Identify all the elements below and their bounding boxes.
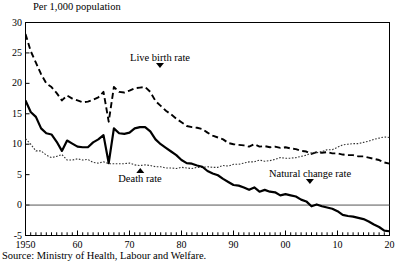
y-axis-tick-label: 5 bbox=[17, 170, 22, 180]
y-axis-tick-label: 30 bbox=[12, 18, 22, 28]
annotation-label: Live birth rate bbox=[130, 52, 190, 63]
x-axis-tick-label: 80 bbox=[177, 239, 187, 250]
y-axis-tick-label: 20 bbox=[12, 78, 22, 88]
down-triangle-icon bbox=[156, 63, 164, 68]
data-series-group bbox=[26, 34, 390, 231]
x-axis-tick-label: 10 bbox=[333, 239, 343, 250]
x-axis-tick-label: 90 bbox=[229, 239, 239, 250]
x-axis-tick-label: 1950 bbox=[16, 239, 36, 250]
annotation-label: Natural change rate bbox=[269, 168, 351, 179]
annotation-label: Death rate bbox=[118, 173, 161, 184]
annotation-natural-change-rate: Natural change rate bbox=[269, 168, 351, 184]
series-natural-change-rate bbox=[26, 100, 390, 231]
x-axis-tick-label: 20 bbox=[385, 239, 395, 250]
y-axis-tick-label: 10 bbox=[12, 139, 22, 149]
plot-frame bbox=[26, 23, 390, 236]
x-axis-tick-label: 70 bbox=[125, 239, 135, 250]
x-axis-minor-ticks bbox=[26, 231, 390, 236]
plot-area bbox=[25, 22, 390, 236]
annotation-death-rate: Death rate bbox=[118, 168, 161, 184]
y-axis-labels: 302520151050-5 bbox=[0, 22, 22, 236]
chart-svg bbox=[25, 22, 390, 236]
x-axis-tick-label: 00 bbox=[281, 239, 291, 250]
x-axis-tick-label: 60 bbox=[73, 239, 83, 250]
vital-rates-figure: Per 1,000 population 302520151050-5 1950… bbox=[0, 0, 399, 263]
y-axis-tick-label: 25 bbox=[12, 48, 22, 58]
annotation-live-birth-rate: Live birth rate bbox=[130, 52, 190, 68]
y-axis-tick-label: 0 bbox=[17, 200, 22, 210]
source-note: Source: Ministry of Health, Labour and W… bbox=[2, 250, 206, 261]
down-triangle-icon bbox=[306, 179, 314, 184]
series-live-birth-rate bbox=[26, 34, 390, 164]
y-axis-unit-label: Per 1,000 population bbox=[33, 1, 121, 12]
y-axis-tick-label: 15 bbox=[12, 109, 22, 119]
y-axis-ticks bbox=[26, 23, 30, 236]
